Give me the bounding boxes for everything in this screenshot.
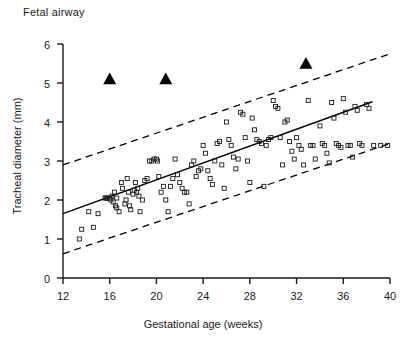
data-point [161, 184, 165, 188]
scatter-points [77, 97, 389, 241]
data-point [159, 190, 163, 194]
prediction-limit-line [63, 54, 390, 165]
x-tick-label: 12 [57, 290, 69, 302]
data-point [222, 186, 226, 190]
data-point [80, 227, 84, 231]
x-tick-label: 20 [150, 290, 162, 302]
data-point [318, 124, 322, 128]
x-tick-label: 24 [197, 290, 209, 302]
data-point [123, 202, 127, 206]
data-point [271, 99, 275, 103]
data-point [229, 143, 233, 147]
data-point [87, 210, 91, 214]
y-tick-label: 1 [44, 234, 50, 246]
y-tick-label: 2 [44, 195, 50, 207]
data-point [187, 202, 191, 206]
data-point [295, 136, 299, 140]
data-point [119, 180, 123, 184]
data-point [243, 136, 247, 140]
data-point [206, 169, 210, 173]
data-point [372, 143, 376, 147]
data-point [248, 180, 252, 184]
data-point [171, 177, 175, 181]
data-point [225, 120, 229, 124]
data-point [140, 198, 144, 202]
y-tick-label: 4 [44, 117, 50, 129]
x-axis-ticks: 1216202428323640 [57, 278, 396, 302]
outlier-triangle-marker [103, 73, 116, 85]
x-tick-label: 36 [337, 290, 349, 302]
data-point [288, 140, 292, 144]
data-point [168, 184, 172, 188]
data-point [124, 198, 128, 202]
data-point [117, 210, 121, 214]
data-point [128, 204, 132, 208]
data-point [133, 180, 137, 184]
data-point [302, 163, 306, 167]
data-point [125, 177, 129, 181]
data-point [129, 208, 133, 212]
x-tick-label: 16 [104, 290, 116, 302]
data-point [253, 128, 257, 132]
data-point [325, 151, 329, 155]
data-point [341, 97, 345, 101]
data-point [194, 175, 198, 179]
data-point [290, 149, 294, 153]
outlier-triangle-marker [299, 57, 312, 69]
data-point [201, 143, 205, 147]
data-point [297, 143, 301, 147]
data-point [250, 116, 254, 120]
data-point [227, 138, 231, 142]
data-point [91, 225, 95, 229]
data-point [306, 99, 310, 103]
data-point [203, 151, 207, 155]
data-point [220, 163, 224, 167]
data-point [264, 143, 268, 147]
data-point [367, 106, 371, 110]
y-tick-label: 0 [44, 273, 50, 285]
y-axis-ticks: 0123456 [44, 39, 63, 285]
data-point [137, 194, 141, 198]
data-point [208, 177, 212, 181]
data-point [234, 167, 238, 171]
y-tick-label: 6 [44, 39, 50, 51]
data-point [246, 159, 250, 163]
data-point [164, 198, 168, 202]
data-point [313, 157, 317, 161]
y-tick-label: 5 [44, 78, 50, 90]
x-tick-label: 40 [384, 290, 396, 302]
data-point [180, 186, 184, 190]
data-point [96, 212, 100, 216]
y-tick-label: 3 [44, 156, 50, 168]
data-point [232, 155, 236, 159]
data-point [292, 157, 296, 161]
x-tick-label: 32 [290, 290, 302, 302]
data-point [236, 157, 240, 161]
data-point [281, 163, 285, 167]
data-point [112, 190, 116, 194]
x-tick-label: 28 [244, 290, 256, 302]
data-point [115, 196, 119, 200]
data-point [166, 210, 170, 214]
data-point [192, 159, 196, 163]
data-point [121, 186, 125, 190]
data-point [355, 108, 359, 112]
data-point [330, 101, 334, 105]
scatter-plot-figure: 0123456 1216202428323640 [0, 0, 406, 342]
triangle-markers [103, 57, 312, 84]
data-point [178, 180, 182, 184]
data-point [138, 210, 142, 214]
data-point [77, 237, 81, 241]
outlier-triangle-marker [159, 73, 172, 85]
data-point [210, 182, 214, 186]
data-point [299, 147, 303, 151]
data-point [173, 157, 177, 161]
